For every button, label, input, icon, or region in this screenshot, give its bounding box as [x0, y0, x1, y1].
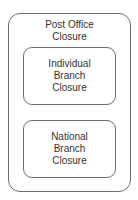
individual-branch-closure-label: Individual Branch Closure: [48, 58, 90, 94]
national-branch-closure-box: National Branch Closure: [23, 120, 116, 178]
national-branch-closure-label: National Branch Closure: [51, 131, 88, 167]
post-office-closure-label: Post Office Closure: [8, 19, 131, 43]
individual-branch-closure-box: Individual Branch Closure: [23, 47, 116, 105]
